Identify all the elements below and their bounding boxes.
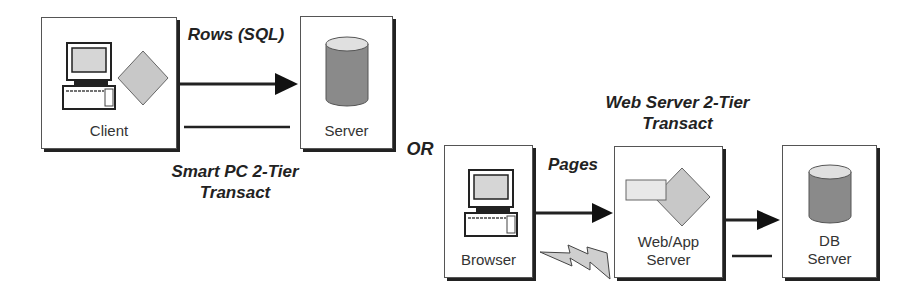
server-box: Server — [300, 16, 393, 149]
webapp-label-line-1: Web/App — [615, 233, 722, 251]
database-icon — [783, 146, 878, 236]
app-component-icon — [615, 147, 724, 237]
rows-arrow — [178, 73, 298, 95]
client-pc-icon — [42, 18, 178, 118]
webapp-label: Web/App Server — [615, 233, 722, 269]
client-box: Client — [41, 17, 177, 149]
database-icon — [301, 17, 394, 117]
caption-line-2: Transact — [585, 113, 770, 134]
caption-line-2: Transact — [140, 182, 330, 203]
or-separator: OR — [400, 139, 440, 160]
rows-sql-label: Rows (SQL) — [176, 24, 296, 45]
db-server-box: DB Server — [782, 145, 877, 278]
browser-label: Browser — [445, 251, 532, 269]
client-label: Client — [42, 122, 176, 140]
browser-pc-icon — [445, 146, 534, 246]
lightning-icon — [540, 245, 610, 279]
webapp-label-line-2: Server — [615, 251, 722, 269]
db-label-line-1: DB — [783, 232, 876, 250]
pages-label: Pages — [538, 154, 608, 175]
caption-line-1: Smart PC 2-Tier — [140, 161, 330, 182]
server-label: Server — [301, 122, 392, 140]
caption-line-1: Web Server 2-Tier — [585, 92, 770, 113]
db-label-line-2: Server — [783, 250, 876, 268]
db-arrow — [724, 210, 780, 230]
db-label: DB Server — [783, 232, 876, 268]
webapp-server-box: Web/App Server — [614, 146, 723, 278]
pages-arrow — [534, 203, 613, 223]
smart-pc-caption: Smart PC 2-Tier Transact — [140, 161, 330, 203]
browser-box: Browser — [444, 145, 533, 278]
web-server-caption: Web Server 2-Tier Transact — [585, 92, 770, 134]
